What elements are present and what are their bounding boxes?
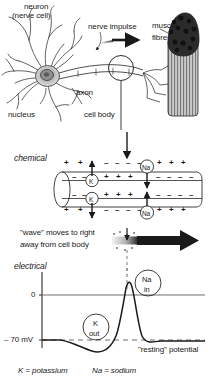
label-nucleus: nucleus	[8, 110, 35, 120]
charge-top-inside-0: –	[72, 172, 76, 182]
charge-top-outside-4: –	[126, 158, 130, 168]
axon-terminal-shape	[143, 66, 169, 102]
section-label-electrical: electrical	[14, 262, 47, 272]
ion-label-k-upper: K	[89, 177, 93, 187]
charge-bottom-inside-2: +	[104, 190, 109, 200]
legend-potassium: K = potassium	[18, 366, 68, 376]
right-arrow-icon-impulse	[101, 40, 138, 43]
charge-top-outside-6: +	[157, 158, 162, 168]
charge-top-outside-8: +	[181, 158, 186, 168]
charge-bottom-outside-7: +	[169, 205, 174, 215]
chart-ytick-zero: 0	[31, 290, 35, 300]
charge-bottom-outside-0: +	[64, 205, 69, 215]
legend-sodium: Na = sodium	[92, 366, 136, 376]
charge-bottom-inside-5: –	[156, 190, 160, 200]
neuron-icon	[2, 6, 91, 121]
charge-bottom-inside-4: +	[128, 190, 133, 200]
down-arrow-icon-link	[121, 81, 127, 159]
annotation-k-out-line2: out	[89, 329, 99, 339]
charge-top-inside-2: +	[104, 172, 109, 182]
electrical-chart	[39, 268, 205, 352]
charge-bottom-inside-8: –	[189, 190, 193, 200]
charge-top-outside-1: +	[78, 158, 83, 168]
magnifier-circle-icon	[109, 56, 134, 81]
label-nerve-impulse: nerve impulse	[88, 22, 137, 32]
charge-bottom-outside-2: –	[104, 205, 108, 215]
charge-top-inside-1: –	[82, 172, 86, 182]
label-muscle-line1: muscle	[152, 21, 177, 31]
charge-bottom-outside-5: –	[137, 205, 141, 215]
label-muscle-line2: fibre	[152, 33, 167, 43]
caption-wave-line2: away from cell body	[20, 240, 89, 250]
section-label-chemical: chemical	[14, 154, 47, 164]
label-neuron-line2: (nerve cell)	[12, 11, 50, 21]
annotation-resting-potential: "resting" potential	[138, 345, 198, 355]
charge-top-outside-0: +	[64, 158, 69, 168]
charge-top-inside-3: +	[116, 172, 121, 182]
charge-top-inside-5: –	[156, 172, 160, 182]
charge-top-outside-3: –	[115, 158, 119, 168]
ion-label-na-upper: Na	[142, 163, 150, 173]
charge-top-inside-7: –	[178, 172, 182, 182]
charge-bottom-outside-4: –	[126, 205, 130, 215]
charge-bottom-inside-0: –	[72, 190, 76, 200]
charge-bottom-inside-1: –	[82, 190, 86, 200]
charge-bottom-outside-8: +	[181, 205, 186, 215]
charge-bottom-inside-6: –	[167, 190, 171, 200]
charge-bottom-inside-3: +	[116, 190, 121, 200]
charge-top-outside-5: –	[137, 158, 141, 168]
ion-label-k-lower: K	[89, 195, 93, 205]
annotation-na-in-line1: Na	[142, 275, 151, 285]
charge-top-inside-6: –	[167, 172, 171, 182]
ion-label-na-lower: Na	[142, 209, 150, 219]
annotation-k-out-line1: K	[93, 319, 98, 329]
charge-top-inside-4: +	[128, 172, 133, 182]
charge-bottom-outside-6: +	[157, 205, 162, 215]
charge-top-outside-2: –	[104, 158, 108, 168]
charge-top-outside-7: +	[169, 158, 174, 168]
label-cell-body: cell body	[84, 110, 115, 120]
figure-root: neuron (nerve cell) nerve impulse muscle…	[0, 0, 212, 382]
label-axon: axon	[76, 88, 93, 98]
chart-trace-membrane-potential	[42, 282, 205, 352]
charge-top-inside-8: –	[189, 172, 193, 182]
right-arrow-icon-wave	[112, 228, 199, 251]
charge-bottom-inside-7: –	[178, 190, 182, 200]
charge-bottom-outside-1: +	[78, 205, 83, 215]
chart-ytick-resting: – 70 mV	[4, 335, 33, 345]
caption-wave-line1: "wave" moves to right	[20, 228, 95, 238]
charge-bottom-outside-3: –	[115, 205, 119, 215]
annotation-na-in-line2: in	[144, 285, 150, 295]
